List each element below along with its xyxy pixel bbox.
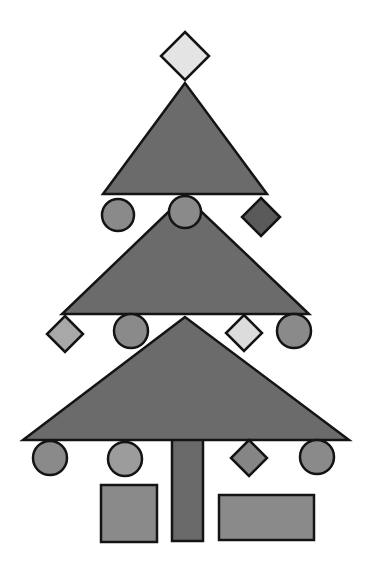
trunk-layer	[172, 439, 203, 541]
tree-trunk	[172, 439, 203, 541]
ornament-ball-1	[169, 196, 201, 228]
ornament-ball-8	[108, 442, 142, 476]
christmas-tree-diagram	[0, 0, 369, 577]
ornament-ball-10	[300, 440, 334, 474]
ornament-ball-4	[114, 314, 148, 348]
ornament-ball-7	[33, 441, 67, 475]
gift-wide	[219, 495, 314, 540]
gift-square	[101, 485, 157, 542]
tree-scene-svg	[0, 0, 369, 577]
ornament-ball-6	[277, 314, 311, 348]
ornament-ball-0	[102, 199, 134, 231]
